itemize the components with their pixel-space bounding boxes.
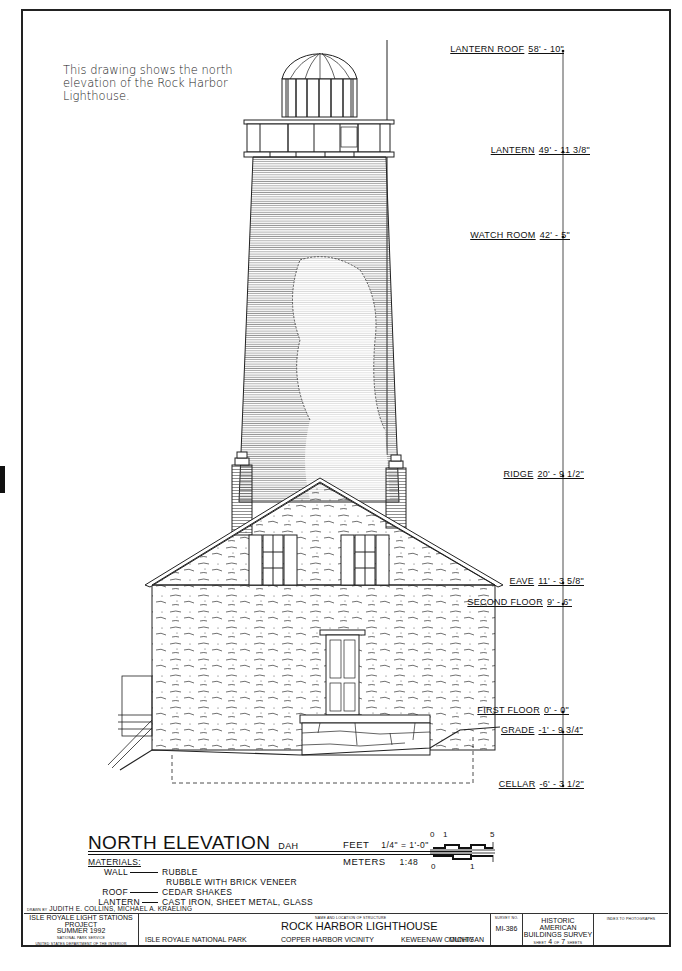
scale-feet-tick-0: 0 [430, 830, 435, 839]
elevation-label-cellar: CELLAR-6' - 3 1/2" [499, 779, 584, 789]
lantern [244, 53, 394, 157]
title-block-survey: SURVEY NO. MI-386 [491, 914, 523, 945]
drawn-by: DRAWN BY JUDITH E. COLLINS, MICHAEL A. K… [27, 905, 192, 912]
structure-name: ROCK HARBOR LIGHTHOUSE [281, 920, 437, 932]
scale-meters: METERS1:48 [343, 856, 418, 867]
elevation-label-lantern: LANTERN49' - 11 3/8" [491, 145, 590, 155]
scale-feet: FEET1/4" = 1'-0" [343, 839, 429, 850]
elevation-label-ridge: RIDGE20' - 9 1/2" [503, 469, 584, 479]
title-block-index: INDEX TO PHOTOGRAPHS [594, 914, 668, 945]
front-door [320, 630, 365, 715]
title-block: ISLE ROYALE LIGHT STATIONS PROJECT SUMME… [24, 913, 668, 945]
scale-meter-tick-0: 0 [431, 862, 436, 871]
drawing-title-initials: DAH [278, 841, 298, 851]
materials-header: MATERIALS: [88, 857, 313, 867]
scale-feet-tick-5: 5 [490, 830, 495, 839]
window-left [249, 535, 297, 585]
materials-legend: MATERIALS: WALLRUBBLE RUBBLE WITH BRICK … [88, 857, 313, 907]
window-right [341, 535, 389, 585]
elevation-label-second-floor: SECOND FLOOR9' - 6" [467, 597, 572, 607]
scale-meter-tick-1: 1 [470, 862, 475, 871]
elevation-label-lantern-roof: LANTERN ROOF58' - 10" [450, 44, 564, 54]
keeper-house [108, 478, 503, 783]
elevation-label-eave: EAVE11' - 3 5/8" [510, 576, 584, 586]
elevation-label-watch-room: WATCH ROOM42' - 5" [470, 230, 570, 240]
material-row-roof: ROOFCEDAR SHAKES [88, 887, 313, 897]
title-rule [88, 851, 472, 855]
title-block-project: ISLE ROYALE LIGHT STATIONS PROJECT SUMME… [24, 914, 139, 945]
title-block-habs: HISTORIC AMERICAN BUILDINGS SURVEY SHEET… [523, 914, 594, 945]
elevation-label-grade: GRADE-1' - 9 3/4" [501, 725, 583, 735]
material-row-wall-veneer: RUBBLE WITH BRICK VENEER [88, 877, 313, 887]
scale-feet-tick-1: 1 [443, 830, 448, 839]
title-block-structure: ISLE ROYALE NATIONAL PARK NAME AND LOCAT… [139, 914, 491, 945]
material-row-wall: WALLRUBBLE [88, 867, 313, 877]
elevation-label-first-floor: FIRST FLOOR0' - 0" [477, 705, 569, 715]
tower [239, 157, 399, 502]
